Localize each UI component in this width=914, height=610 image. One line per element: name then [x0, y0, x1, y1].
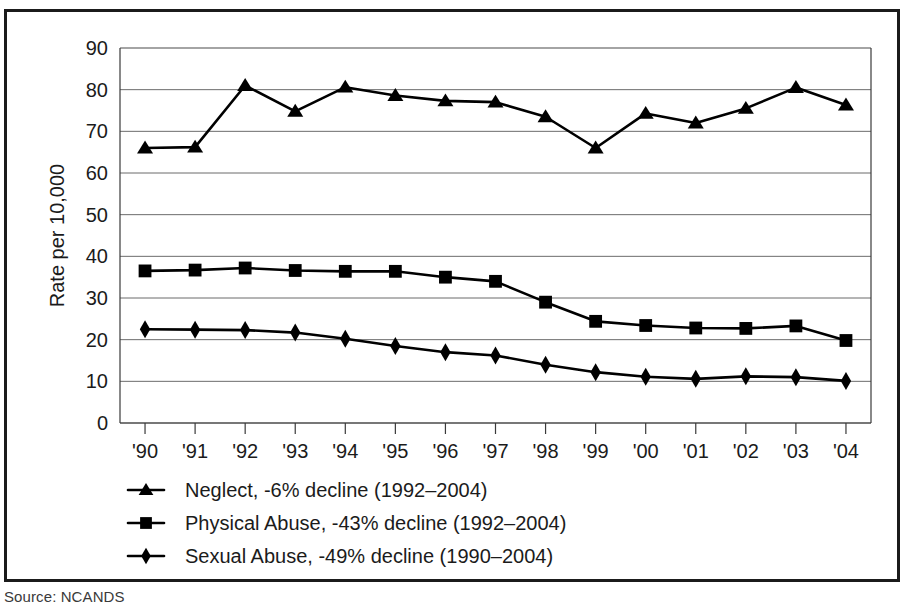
figure-border: 0102030405060708090'90'91'92'93'94'95'96…: [4, 9, 900, 582]
data-point-marker: [290, 324, 300, 342]
y-axis-tick-label: 30: [86, 287, 108, 309]
data-point-marker: [790, 320, 803, 333]
data-point-marker: [490, 347, 500, 365]
data-point-marker: [689, 322, 702, 335]
data-point-marker: [239, 262, 252, 275]
x-axis: '90'91'92'93'94'95'96'97'98'99'00'01'02'…: [132, 423, 859, 462]
x-axis-tick-label: '90: [132, 440, 158, 462]
x-axis-tick-label: '96: [432, 440, 458, 462]
legend: Neglect, -6% decline (1992–2004)Physical…: [128, 479, 566, 567]
gridlines: 0102030405060708090: [86, 37, 871, 434]
data-point-marker: [791, 368, 801, 386]
data-point-marker: [440, 343, 450, 361]
x-axis-tick-label: '01: [683, 440, 709, 462]
data-point-marker: [589, 315, 602, 328]
data-point-marker: [389, 265, 402, 278]
figure-root: 0102030405060708090'90'91'92'93'94'95'96…: [0, 0, 914, 610]
data-point-marker: [638, 106, 654, 119]
x-axis-tick-label: '04: [833, 440, 859, 462]
x-axis-tick-label: '98: [533, 440, 559, 462]
x-axis-tick-label: '97: [482, 440, 508, 462]
data-point-marker: [739, 322, 752, 335]
x-axis-tick-label: '93: [282, 440, 308, 462]
x-axis-tick-label: '02: [733, 440, 759, 462]
x-axis-tick-label: '00: [633, 440, 659, 462]
data-point-marker: [339, 265, 352, 278]
y-axis-tick-label: 60: [86, 162, 108, 184]
data-point-marker: [190, 321, 200, 339]
data-point-marker: [691, 370, 701, 388]
data-point-marker: [439, 271, 452, 284]
data-point-marker: [588, 141, 604, 154]
line-chart: 0102030405060708090'90'91'92'93'94'95'96…: [7, 12, 897, 579]
y-axis-title: Rate per 10,000: [46, 164, 68, 307]
legend-marker-square-icon: [140, 517, 152, 529]
legend-label: Physical Abuse, -43% decline (1992–2004): [185, 512, 566, 534]
data-point-marker: [140, 320, 150, 338]
data-point-marker: [540, 356, 550, 374]
data-point-marker: [489, 275, 502, 288]
data-point-marker: [741, 367, 751, 385]
y-axis-tick-label: 10: [86, 370, 108, 392]
data-point-marker: [641, 368, 651, 386]
data-point-marker: [287, 104, 303, 117]
source-note: Source: NCANDS: [4, 588, 125, 605]
x-axis-tick-label: '03: [783, 440, 809, 462]
y-axis-tick-label: 40: [86, 245, 108, 267]
y-axis-tick-label: 20: [86, 329, 108, 351]
x-axis-tick-label: '94: [332, 440, 358, 462]
y-axis-tick-label: 50: [86, 204, 108, 226]
y-axis-tick-label: 0: [97, 412, 108, 434]
x-axis-tick-label: '92: [232, 440, 258, 462]
legend-item-neglect[interactable]: Neglect, -6% decline (1992–2004): [128, 479, 487, 501]
data-point-marker: [590, 363, 600, 381]
data-point-marker: [337, 80, 353, 93]
y-axis-tick-label: 70: [86, 120, 108, 142]
legend-label: Sexual Abuse, -49% decline (1990–2004): [185, 545, 553, 567]
data-point-marker: [139, 265, 152, 278]
data-point-marker: [841, 372, 851, 390]
data-point-marker: [240, 321, 250, 339]
x-axis-tick-label: '99: [583, 440, 609, 462]
data-point-marker: [840, 334, 853, 347]
x-axis-tick-label: '95: [382, 440, 408, 462]
legend-item-sexual-abuse[interactable]: Sexual Abuse, -49% decline (1990–2004): [128, 545, 553, 567]
y-axis-tick-label: 90: [86, 37, 108, 59]
x-axis-tick-label: '91: [182, 440, 208, 462]
data-point-marker: [289, 264, 302, 277]
legend-marker-diamond-icon: [141, 548, 151, 565]
data-point-marker: [340, 330, 350, 348]
data-point-marker: [189, 264, 202, 277]
data-point-marker: [639, 319, 652, 332]
y-axis-tick-label: 80: [86, 79, 108, 101]
legend-item-physical-abuse[interactable]: Physical Abuse, -43% decline (1992–2004): [128, 512, 566, 534]
data-point-marker: [788, 80, 804, 93]
legend-label: Neglect, -6% decline (1992–2004): [185, 479, 487, 501]
data-point-marker: [539, 296, 552, 309]
data-point-marker: [237, 78, 253, 91]
